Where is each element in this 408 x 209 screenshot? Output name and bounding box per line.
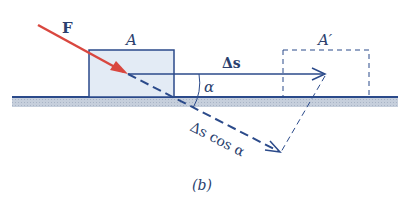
block-a-prime-label: A′ [316, 31, 333, 49]
perpendicular-line [281, 76, 325, 152]
ground [12, 97, 398, 107]
figure-caption: (b) [192, 177, 212, 193]
block-a-label: A [124, 31, 137, 49]
force-label: F [62, 19, 73, 37]
projection-label: Δs cos α [188, 118, 248, 159]
work-displacement-diagram: F A A′ Δs α Δs cos α (b) [0, 0, 408, 209]
displacement-label: Δs [222, 55, 241, 71]
angle-label: α [204, 78, 214, 96]
